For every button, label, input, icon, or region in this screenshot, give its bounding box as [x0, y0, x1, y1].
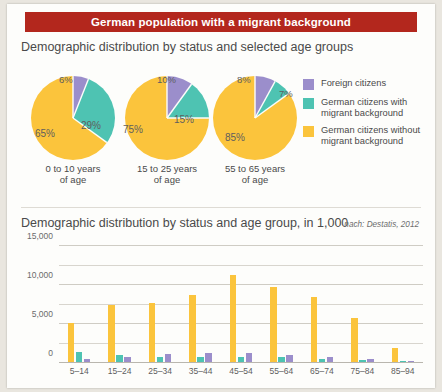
x-axis-tick-label: 35–44 — [180, 366, 220, 376]
x-axis-tick-label: 65–74 — [302, 366, 342, 376]
x-axis-tick-label: 75–84 — [342, 366, 382, 376]
bar — [270, 287, 277, 362]
bar-group: 75–84 — [351, 245, 374, 362]
pie-slice-label: 15% — [174, 114, 194, 125]
legend-label: German citizens with migrant background — [321, 97, 431, 118]
legend-item-3: German citizens without migrant backgrou… — [303, 125, 431, 146]
pie-chart-caption: 0 to 10 yearsof age — [25, 163, 121, 185]
bar-group: 55–64 — [270, 245, 293, 362]
bar — [367, 359, 374, 362]
bar — [76, 352, 83, 362]
legend-swatch — [303, 98, 314, 109]
bar — [230, 275, 237, 362]
bar — [246, 353, 253, 362]
bar — [68, 323, 75, 362]
section-1-title: Demographic distribution by status and s… — [21, 40, 353, 54]
x-axis-tick-label: 5–14 — [59, 366, 99, 376]
bar — [408, 361, 415, 363]
page-title: German population with a migrant backgro… — [91, 16, 351, 28]
pie-chart-caption: 55 to 65 yearsof age — [207, 163, 303, 185]
x-axis-tick-label: 15–24 — [99, 366, 139, 376]
pie-slice-label: 8% — [237, 74, 251, 85]
y-axis-tick-label: 15,000 — [19, 231, 53, 241]
source-attribution: nach: Destatis, 2012 — [344, 220, 419, 229]
legend-label: Foreign citizens — [321, 78, 386, 89]
x-axis-tick-label: 85–94 — [383, 366, 423, 376]
title-banner: German population with a migrant backgro… — [25, 12, 417, 32]
pie-slice-label: 7% — [279, 88, 293, 99]
x-axis-tick-label: 55–64 — [261, 366, 301, 376]
legend-label: German citizens without migrant backgrou… — [321, 125, 431, 146]
bar — [189, 295, 196, 362]
bar-group: 5–14 — [68, 245, 91, 362]
bar — [238, 357, 245, 362]
infographic-card: German population with a migrant backgro… — [7, 4, 435, 388]
bar — [124, 357, 131, 362]
pie-disc — [31, 76, 115, 160]
bar-group: 45–54 — [230, 245, 253, 362]
section-divider — [21, 207, 421, 208]
bar — [311, 297, 318, 362]
y-axis-tick-label: 10,000 — [19, 270, 53, 280]
bar — [351, 318, 358, 362]
pie-disc — [125, 76, 209, 160]
bar-chart: 05,00010,00015,0005–1415–2425–3435–4445–… — [21, 240, 425, 382]
legend-swatch — [303, 126, 314, 137]
bar — [205, 353, 212, 362]
bar — [286, 355, 293, 362]
bar — [278, 357, 285, 362]
bar — [319, 359, 326, 363]
legend-item-1: Foreign citizens — [303, 78, 431, 90]
pie-chart-caption: 15 to 25 yearsof age — [119, 163, 215, 185]
y-axis-tick-label: 5,000 — [19, 309, 53, 319]
bar — [149, 303, 156, 362]
bar — [108, 305, 115, 362]
x-axis-line — [59, 362, 423, 363]
pie-slice-label: 85% — [225, 132, 245, 143]
bar-group: 65–74 — [311, 245, 334, 362]
pie-slice-label: 75% — [123, 124, 143, 135]
bar — [84, 359, 91, 362]
bar-group: 15–24 — [108, 245, 131, 362]
bar — [165, 354, 172, 362]
legend-item-2: German citizens with migrant background — [303, 97, 431, 118]
y-axis-tick-label: 0 — [19, 348, 53, 358]
pie-slice-label: 65% — [35, 128, 55, 139]
x-axis-tick-label: 25–34 — [140, 366, 180, 376]
section-2-title: Demographic distribution by status and a… — [21, 216, 348, 230]
bar-group: 25–34 — [149, 245, 172, 362]
pie-slice-label: 10% — [157, 74, 176, 85]
bar — [392, 348, 399, 362]
bar — [157, 357, 164, 362]
pie-slice-label: 6% — [59, 74, 73, 85]
x-axis-tick-label: 45–54 — [221, 366, 261, 376]
pie-slice-label: 29% — [81, 120, 101, 131]
bar — [359, 360, 366, 362]
bar — [197, 357, 204, 362]
bar-chart-plot-area: 05,00010,00015,0005–1415–2425–3435–4445–… — [59, 246, 423, 363]
bar — [116, 355, 123, 362]
bar-group: 35–44 — [189, 245, 212, 362]
bar-group: 85–94 — [392, 245, 415, 362]
legend-swatch — [303, 79, 314, 90]
legend: Foreign citizensGerman citizens with mig… — [303, 78, 431, 153]
bar — [400, 361, 407, 363]
bar — [327, 357, 334, 362]
